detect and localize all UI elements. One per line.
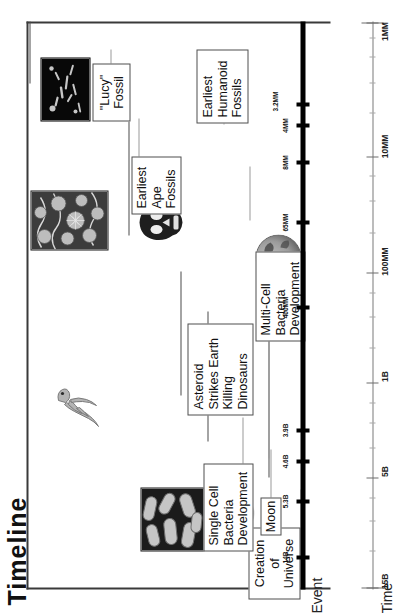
event-marker-label-65mm: 65MM <box>281 213 288 231</box>
callout-line-1: Earliest <box>200 55 215 117</box>
time-tick-label-1mm: 1MM <box>379 22 389 41</box>
time-tick-1b <box>366 382 378 383</box>
event-marker-label-14b: 14B <box>281 551 288 563</box>
microbe-colony-micrograph-photo <box>30 190 108 250</box>
callout-multi-cell-bacteria[interactable]: Multi-Cell Bacteria Development <box>255 251 305 341</box>
time-tick-minor <box>369 175 375 176</box>
callout-line-3: Fossils <box>163 162 178 208</box>
event-marker-4mm[interactable] <box>296 123 309 127</box>
time-tick-minor <box>369 422 375 423</box>
time-tick-label-15b: 15B <box>379 573 389 589</box>
callout-line-2: Ape <box>149 162 164 208</box>
callout-line-2: Strikes Earth <box>206 329 221 409</box>
time-tick-minor <box>369 292 375 293</box>
callout-earliest-ape-fossils[interactable]: Earliest Ape Fossils <box>131 156 181 214</box>
callout-asteroid-strikes-earth[interactable]: Asteroid Strikes Earth Killing Dinosaurs <box>187 323 253 415</box>
time-tick-15b <box>366 587 378 588</box>
time-tick-minor <box>369 497 375 498</box>
event-axis-label: Event <box>308 577 324 613</box>
time-tick-label-10mm: 10MM <box>379 134 389 158</box>
event-marker-400mm[interactable] <box>296 305 309 309</box>
time-tick-minor <box>369 447 375 448</box>
event-marker-3-2mm[interactable] <box>296 102 309 106</box>
callout-line-1: Asteroid <box>191 329 206 409</box>
leader-asteroid <box>249 166 250 220</box>
callout-earliest-humanoid-fossils[interactable]: Earliest Humanoid Fossils <box>196 49 248 123</box>
leader-moon <box>270 449 271 501</box>
time-tick-10mm <box>366 156 378 157</box>
event-marker-65mm[interactable] <box>296 220 309 224</box>
time-tick-label-5b: 5B <box>379 466 389 477</box>
event-marker-label-3-9b: 3.9B <box>281 423 288 437</box>
time-tick-minor <box>369 200 375 201</box>
time-tick-label-100mm: 100MM <box>379 247 389 275</box>
time-tick-minor <box>369 347 375 348</box>
dinosaur-skeleton-photo <box>48 376 102 430</box>
event-marker-8mm[interactable] <box>296 160 309 164</box>
callout-creation-of-universe[interactable]: Creation of Universe <box>248 527 300 599</box>
callout-line-1: Creation <box>252 539 267 586</box>
callout-line-3: Development <box>235 469 250 545</box>
time-tick-minor <box>369 232 375 233</box>
time-tick-minor <box>369 82 375 83</box>
leader-ape-rule <box>128 121 129 235</box>
event-marker-label-5-3b: 5.3B <box>281 494 288 508</box>
time-tick-minor <box>369 56 375 57</box>
event-marker-5-3b[interactable] <box>296 499 309 503</box>
event-marker-14b[interactable] <box>296 555 309 559</box>
time-tick-1mm <box>366 22 378 23</box>
leader-single-cell <box>242 417 243 465</box>
callout-line-2: Bacteria <box>221 469 236 545</box>
callout-moon[interactable]: Moon <box>260 497 281 535</box>
event-marker-label-400mm: 400MM <box>281 296 288 318</box>
callout-line-1: Earliest <box>134 162 149 208</box>
callout-single-cell-bacteria[interactable]: Single Cell Bacteria Development <box>203 463 253 551</box>
time-tick-minor <box>369 37 375 38</box>
event-marker-label-3-2mm: 3.2MM <box>271 91 278 111</box>
time-tick-minor <box>369 316 375 317</box>
event-marker-3-9b[interactable] <box>296 428 309 432</box>
timeline-canvas: Timeline <box>0 0 394 613</box>
time-tick-minor <box>369 112 375 113</box>
callout-line-1: Single Cell <box>206 469 221 545</box>
callout-line-1: Moon <box>263 500 278 531</box>
time-tick-minor <box>369 550 375 551</box>
leader-asteroid-rule <box>180 271 181 395</box>
callout-line-1: "Lucy" <box>97 74 112 109</box>
callout-line-1: Multi-Cell <box>258 257 273 335</box>
event-marker-label-4mm: 4MM <box>281 118 288 132</box>
callout-line-3: Killing <box>220 329 235 409</box>
event-marker-4-6b[interactable] <box>296 459 309 463</box>
callout-line-2: of <box>267 558 282 568</box>
event-marker-label-8mm: 8MM <box>281 155 288 169</box>
callout-line-3: Fossils <box>229 55 244 117</box>
leader-ape <box>138 118 139 161</box>
timeline-figure: Timeline <box>0 0 394 613</box>
event-marker-label-4-6b: 4.6B <box>281 454 288 468</box>
time-tick-label-1b: 1B <box>379 371 389 382</box>
leader-top-rule <box>29 21 30 83</box>
time-tick-minor <box>369 520 375 521</box>
callout-line-4: Dinosaurs <box>235 329 250 409</box>
time-tick-100mm <box>366 272 378 273</box>
callout-line-2: Humanoid <box>215 55 230 117</box>
time-tick-minor <box>369 402 375 403</box>
time-axis-line <box>372 21 373 589</box>
callout-lucy-fossil[interactable]: "Lucy" Fossil <box>92 63 130 121</box>
callout-line-2: Fossil <box>111 76 126 109</box>
lucy-skeleton-fossil-photo <box>40 57 90 121</box>
rod-bacteria-micrograph-photo <box>140 487 204 551</box>
time-tick-5b <box>366 477 378 478</box>
